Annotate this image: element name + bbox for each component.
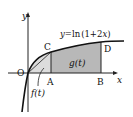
- point-D-label: D: [104, 44, 111, 54]
- diagram: y x O A B C D g(t) f(t) y=ln(1+2x): [0, 0, 133, 117]
- point-B-label: B: [97, 77, 104, 87]
- graph: y x O A B C D g(t) f(t) y=ln(1+2x): [0, 0, 133, 117]
- x-axis-label: x: [117, 75, 122, 85]
- point-C-label: C: [44, 42, 51, 52]
- y-axis-label: y: [21, 11, 28, 21]
- origin-label: O: [17, 68, 24, 78]
- point-A-label: A: [46, 77, 54, 87]
- f-label: f(t): [30, 88, 45, 98]
- curve-label: y=ln(1+2x): [59, 29, 111, 39]
- g-label: g(t): [69, 58, 86, 68]
